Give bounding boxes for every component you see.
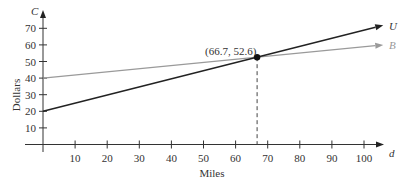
x-tick-label: 10 xyxy=(70,152,82,164)
series-b-label: B xyxy=(389,39,396,51)
series-u-label: U xyxy=(389,20,398,32)
x-axis-label: Miles xyxy=(199,167,224,179)
x-axis-variable: d xyxy=(389,147,395,159)
break-even-chart: 102030405060708090100 10203040506070 C d… xyxy=(0,0,402,186)
x-tick-label: 20 xyxy=(102,152,114,164)
y-tick-label: 30 xyxy=(25,89,37,101)
y-tick-label: 10 xyxy=(25,122,37,134)
series-b-arrow-icon xyxy=(375,43,383,49)
y-tick-label: 20 xyxy=(25,105,37,117)
y-tick-label: 40 xyxy=(25,72,37,84)
y-axis-variable: C xyxy=(31,5,39,17)
y-tick-label: 60 xyxy=(25,39,37,51)
x-tick-label: 50 xyxy=(198,152,210,164)
x-tick-label: 40 xyxy=(166,152,178,164)
intersection-label: (66.7, 52.6) xyxy=(205,45,257,58)
y-axis-label: Dollars xyxy=(10,79,22,111)
x-tick-label: 80 xyxy=(294,152,306,164)
x-tick-label: 60 xyxy=(230,152,242,164)
y-tick-label: 70 xyxy=(25,22,37,34)
series-u-arrow-icon xyxy=(375,24,383,30)
series-u-line xyxy=(43,27,376,111)
y-axis-arrow-icon xyxy=(40,10,46,18)
x-tick-label: 100 xyxy=(356,152,373,164)
x-tick-label: 90 xyxy=(326,152,338,164)
x-axis-arrow-icon xyxy=(376,142,384,148)
x-tick-label: 70 xyxy=(262,152,274,164)
y-tick-label: 50 xyxy=(25,56,37,68)
x-tick-label: 30 xyxy=(134,152,146,164)
